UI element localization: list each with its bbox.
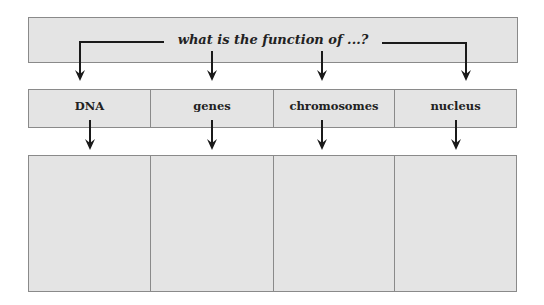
- question-box: what is the function of ...?: [28, 17, 518, 63]
- answer-box-genes[interactable]: [150, 155, 274, 292]
- category-label-genes: genes: [151, 90, 273, 127]
- category-label-dna: DNA: [29, 90, 150, 127]
- answer-box-dna[interactable]: [28, 155, 151, 292]
- category-cell-nucleus: nucleus: [394, 89, 517, 128]
- answer-box-nucleus[interactable]: [394, 155, 517, 292]
- answer-box-chromosomes[interactable]: [273, 155, 395, 292]
- question-text: what is the function of ...?: [29, 32, 517, 47]
- category-cell-chromosomes: chromosomes: [273, 89, 395, 128]
- category-label-chromosomes: chromosomes: [274, 90, 394, 127]
- category-cell-dna: DNA: [28, 89, 151, 128]
- category-label-nucleus: nucleus: [395, 90, 516, 127]
- category-cell-genes: genes: [150, 89, 274, 128]
